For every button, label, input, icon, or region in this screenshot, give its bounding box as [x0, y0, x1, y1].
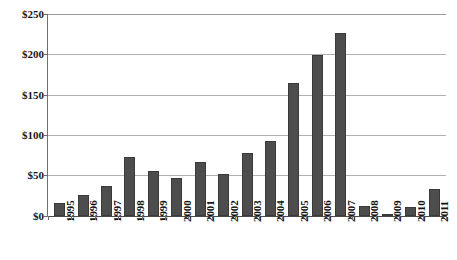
x-axis-tick-label: 1996	[88, 200, 99, 222]
x-axis-tick-mark	[235, 216, 236, 220]
x-axis-tick-mark	[423, 216, 424, 220]
x-axis-tick-mark	[165, 216, 166, 220]
y-axis-tick-mark	[44, 14, 48, 15]
x-axis-tick-label: 1998	[135, 200, 146, 222]
plot-area	[48, 14, 446, 216]
x-axis-tick-mark	[71, 216, 72, 220]
x-axis-tick-label: 2008	[369, 200, 380, 222]
y-axis-tick-mark	[44, 54, 48, 55]
x-axis-tick-label: 2009	[392, 200, 403, 222]
x-axis-line	[48, 216, 446, 217]
gridline-150	[48, 95, 446, 96]
x-axis-tick-mark	[399, 216, 400, 220]
y-axis-tick-mark	[44, 95, 48, 96]
bar-2005	[288, 83, 299, 216]
y-axis-line	[47, 14, 48, 216]
x-axis-tick-mark	[352, 216, 353, 220]
x-axis-tick-mark	[446, 216, 447, 220]
x-axis-tick-label: 2000	[182, 200, 193, 222]
y-axis-tick-label: $100	[0, 129, 44, 140]
y-axis-tick-mark	[44, 175, 48, 176]
x-axis-tick-mark	[48, 216, 49, 220]
x-axis-tick-mark	[259, 216, 260, 220]
x-axis-tick-label: 2005	[299, 200, 310, 222]
gridline-200	[48, 54, 446, 55]
bar-2006	[312, 55, 323, 215]
x-axis-tick-label: 2001	[205, 200, 216, 222]
y-axis-tick-label: $0	[0, 210, 44, 221]
bar-chart: $0$50$100$150$200$250 199519961997199819…	[0, 0, 457, 260]
x-axis-tick-mark	[376, 216, 377, 220]
x-axis-tick-mark	[329, 216, 330, 220]
y-axis-tick-mark	[44, 135, 48, 136]
bar-2007	[335, 33, 346, 216]
x-axis-tick-label: 2004	[275, 200, 286, 222]
x-axis-tick-label: 1999	[158, 200, 169, 222]
y-axis-tick-label: $50	[0, 170, 44, 181]
x-axis-tick-mark	[282, 216, 283, 220]
x-axis-tick-label: 2010	[416, 200, 427, 222]
x-axis-tick-label: 1995	[65, 200, 76, 222]
x-axis-tick-mark	[118, 216, 119, 220]
x-axis-tick-label: 2007	[346, 200, 357, 222]
x-axis-tick-label: 2003	[252, 200, 263, 222]
y-axis-tick-label: $250	[0, 9, 44, 20]
gridline-250	[48, 14, 446, 15]
x-axis-tick-mark	[212, 216, 213, 220]
y-axis-tick-label: $200	[0, 49, 44, 60]
gridline-100	[48, 135, 446, 136]
y-axis-tick-label: $150	[0, 89, 44, 100]
x-axis-tick-mark	[306, 216, 307, 220]
x-axis-tick-label: 2006	[322, 200, 333, 222]
x-axis-tick-mark	[95, 216, 96, 220]
x-axis-tick-mark	[142, 216, 143, 220]
x-axis-tick-mark	[188, 216, 189, 220]
x-axis-tick-label: 1997	[112, 200, 123, 222]
x-axis-tick-label: 2011	[439, 201, 450, 222]
x-axis-tick-label: 2002	[229, 200, 240, 222]
